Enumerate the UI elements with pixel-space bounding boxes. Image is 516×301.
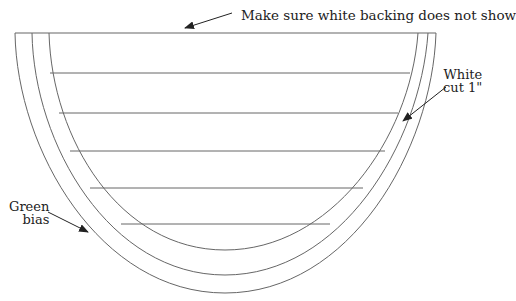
green-bias-arrow bbox=[48, 212, 88, 232]
green-bias-label: Green bias bbox=[9, 200, 49, 226]
white-cut-arrow bbox=[403, 87, 446, 121]
inner-curve bbox=[49, 33, 418, 250]
outer-curve bbox=[15, 33, 436, 293]
white-cut-label: White cut 1" bbox=[443, 68, 482, 94]
middle-curve bbox=[32, 33, 428, 275]
green-bias-label-line2: bias bbox=[9, 213, 49, 226]
white-cut-label-line2: cut 1" bbox=[443, 81, 482, 94]
top-note-label: Make sure white backing does not show bbox=[241, 9, 516, 23]
top-note-arrow bbox=[185, 13, 232, 28]
